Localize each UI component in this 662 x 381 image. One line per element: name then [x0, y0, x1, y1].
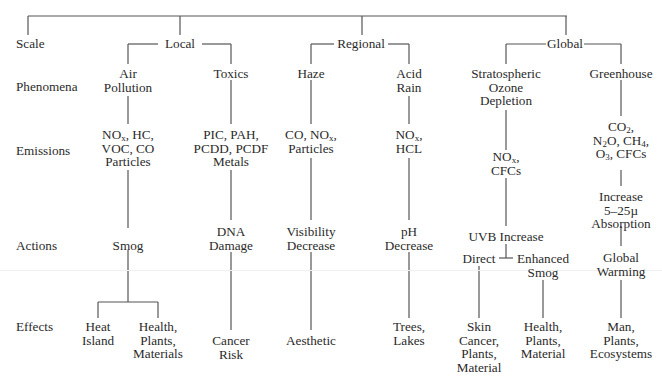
effect-heat-island: Heat Island	[82, 320, 114, 347]
phenomenon-greenhouse: Greenhouse	[590, 67, 653, 81]
phenomenon-haze: Haze	[297, 67, 324, 81]
effect-skin-cancer: Skin Cancer, Plants, Material	[457, 320, 502, 374]
action-dna-damage: DNA Damage	[209, 225, 253, 252]
effect-trees-lakes: Trees, Lakes	[393, 320, 425, 347]
row-label-actions: Actions	[16, 239, 57, 253]
sub-action-direct: Direct	[463, 252, 496, 266]
emissions-haze: CO, NOx, Particles	[285, 128, 337, 155]
effect-health-plants-material: Health, Plants, Material	[521, 320, 566, 361]
scale-global: Global	[547, 37, 583, 51]
environmental-impact-diagram: Scale Phenomena Emissions Actions Effect…	[0, 0, 662, 381]
action-smog: Smog	[113, 239, 144, 253]
emissions-toxics: PIC, PAH, PCDD, PCDF Metals	[194, 128, 269, 169]
emissions-greenhouse: CO2, N2O, CH4, O3, CFCs	[593, 120, 649, 161]
scale-regional: Regional	[337, 37, 385, 51]
row-label-scale: Scale	[16, 37, 45, 51]
action-ph-decrease: pH Decrease	[385, 225, 433, 252]
action-increase-absorption: Increase 5–25µ Absorption	[591, 190, 650, 231]
phenomenon-air-pollution: Air Pollution	[104, 67, 152, 94]
emissions-air-pollution: NOx, HC, VOC, CO Particles	[102, 128, 155, 169]
emissions-ozone: NOx, CFCs	[491, 150, 521, 177]
phenomenon-acid-rain: Acid Rain	[396, 67, 422, 94]
sub-action-enhanced-smog: Enhanced Smog	[517, 252, 569, 279]
row-label-emissions: Emissions	[16, 144, 70, 158]
row-label-phenomena: Phenomena	[16, 80, 78, 94]
action-visibility-decrease: Visibility Decrease	[286, 225, 335, 252]
effect-aesthetic: Aesthetic	[286, 334, 336, 348]
phenomenon-toxics: Toxics	[214, 67, 249, 81]
action-uvb-increase: UVB Increase	[468, 230, 543, 244]
row-label-effects: Effects	[16, 320, 53, 334]
emissions-acid-rain: NOx, HCL	[396, 128, 423, 155]
effect-cancer-risk: Cancer Risk	[212, 334, 249, 361]
phenomenon-ozone-depletion: Stratospheric Ozone Depletion	[471, 67, 541, 108]
scale-local: Local	[165, 37, 195, 51]
action-global-warming: Global Warming	[597, 251, 646, 278]
effect-health-plants-materials: Health, Plants, Materials	[133, 320, 183, 361]
effect-man-plants-ecosystems: Man, Plants, Ecosystems	[590, 320, 652, 361]
